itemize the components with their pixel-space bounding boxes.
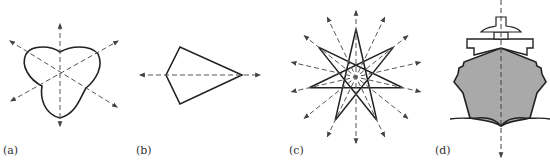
label-c: (c)	[289, 144, 304, 157]
symmetry-figure	[0, 0, 550, 162]
panel-b-kite	[140, 47, 260, 104]
panel-a-trefoil	[10, 24, 118, 126]
label-a: (a)	[3, 144, 18, 157]
label-b: (b)	[136, 144, 152, 157]
panel-d-ship	[450, 0, 550, 157]
panel-c-star	[292, 11, 421, 143]
label-d: (d)	[435, 144, 451, 157]
